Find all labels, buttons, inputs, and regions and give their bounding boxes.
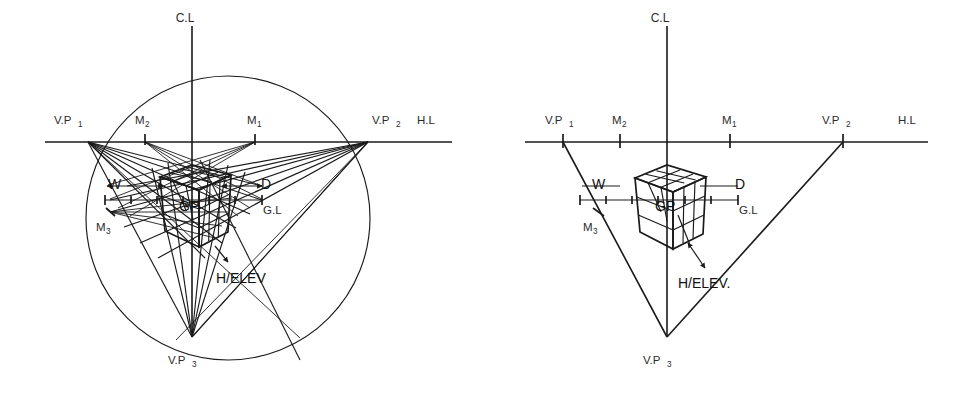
svg-text:M: M xyxy=(135,114,145,126)
label-vp1-right: V.P 1 xyxy=(545,114,574,129)
label-m3-right: M 3 xyxy=(583,221,598,236)
label-horizon-line-right: H.L xyxy=(898,114,917,126)
label-height-right: H/ELEV. xyxy=(678,275,730,291)
label-m3-left: M 3 xyxy=(96,221,111,236)
label-depth-right: D xyxy=(735,176,745,192)
svg-text:V.P: V.P xyxy=(822,114,840,126)
svg-text:M: M xyxy=(612,114,622,126)
svg-text:3: 3 xyxy=(667,360,672,369)
horizon-ticks-right xyxy=(563,134,843,148)
svg-text:V.P: V.P xyxy=(643,354,661,366)
svg-text:V.P: V.P xyxy=(168,354,186,366)
svg-text:1: 1 xyxy=(732,120,737,129)
label-width-right: W xyxy=(592,176,606,192)
label-m1-left: M 1 xyxy=(247,114,262,129)
vp3-rays-left xyxy=(88,142,368,337)
svg-text:V.P: V.P xyxy=(54,114,72,126)
label-height-left: H/ELEV xyxy=(216,270,266,286)
label-ground-point-right: GP xyxy=(655,198,675,214)
label-center-line-right: C.L xyxy=(651,11,670,25)
height-leader-right xyxy=(688,243,705,268)
label-width-left: W xyxy=(108,176,122,192)
horizon-ticks-left xyxy=(145,134,255,145)
svg-text:2: 2 xyxy=(145,120,150,129)
label-m2-left: M 2 xyxy=(135,114,150,129)
svg-text:M: M xyxy=(722,114,732,126)
left-diagram: C.L H.L G.L GP V.P 1 V.P 2 V.P 3 M 1 M xyxy=(45,11,452,369)
svg-text:2: 2 xyxy=(396,120,401,129)
height-leader-stub-right xyxy=(678,215,690,245)
svg-text:2: 2 xyxy=(622,120,627,129)
label-vp1-left: V.P 1 xyxy=(54,114,83,129)
svg-text:1: 1 xyxy=(78,120,83,129)
svg-text:V.P: V.P xyxy=(372,114,390,126)
label-vp2-right: V.P 2 xyxy=(822,114,851,129)
svg-text:M: M xyxy=(247,114,257,126)
label-ground-line-left: G.L xyxy=(263,204,282,216)
label-ground-line-right: G.L xyxy=(739,204,758,216)
vp2-rays-left xyxy=(110,142,368,340)
svg-text:V.P: V.P xyxy=(545,114,563,126)
diagram-canvas: C.L H.L G.L GP V.P 1 V.P 2 V.P 3 M 1 M xyxy=(0,0,978,409)
label-vp3-right: V.P 3 xyxy=(643,354,672,369)
right-diagram: C.L H.L G.L GP V.P 1 V.P 2 V.P 3 M 1 M xyxy=(525,11,928,369)
label-m2-right: M 2 xyxy=(612,114,627,129)
svg-text:1: 1 xyxy=(569,120,574,129)
label-ground-point-left: GP xyxy=(179,198,199,214)
svg-text:3: 3 xyxy=(593,227,598,236)
label-vp2-left: V.P 2 xyxy=(372,114,401,129)
label-m1-right: M 1 xyxy=(722,114,737,129)
label-horizon-line-left: H.L xyxy=(417,114,436,126)
svg-text:1: 1 xyxy=(257,120,262,129)
label-depth-left: D xyxy=(261,176,271,192)
perspective-figure: C.L H.L G.L GP V.P 1 V.P 2 V.P 3 M 1 M xyxy=(0,0,978,409)
svg-text:M: M xyxy=(583,221,593,233)
label-vp3-left: V.P 3 xyxy=(168,354,197,369)
label-center-line-left: C.L xyxy=(176,11,195,25)
svg-text:2: 2 xyxy=(846,120,851,129)
svg-text:M: M xyxy=(96,221,106,233)
svg-text:3: 3 xyxy=(106,227,111,236)
svg-text:3: 3 xyxy=(192,360,197,369)
